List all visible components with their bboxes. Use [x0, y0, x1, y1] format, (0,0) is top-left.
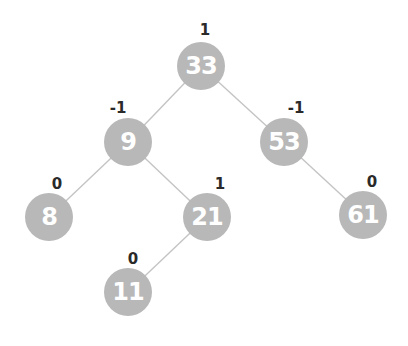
tree-node-61: 61	[339, 191, 387, 239]
tree-node-11: 11	[104, 268, 152, 316]
tree-diagram: 3319-153-180211610110	[0, 0, 408, 346]
tree-node-33: 33	[177, 42, 225, 90]
tree-node-9: 9	[104, 118, 152, 166]
balance-factor-21: 1	[215, 175, 225, 193]
balance-factor-33: 1	[200, 21, 210, 39]
tree-node-21: 21	[183, 193, 231, 241]
balance-factor-11: 0	[128, 250, 138, 268]
balance-factor-61: 0	[367, 173, 377, 191]
tree-node-8: 8	[25, 193, 73, 241]
balance-factor-9: -1	[110, 99, 127, 117]
balance-factor-53: -1	[288, 99, 305, 117]
tree-node-53: 53	[260, 118, 308, 166]
balance-factor-8: 0	[52, 175, 62, 193]
